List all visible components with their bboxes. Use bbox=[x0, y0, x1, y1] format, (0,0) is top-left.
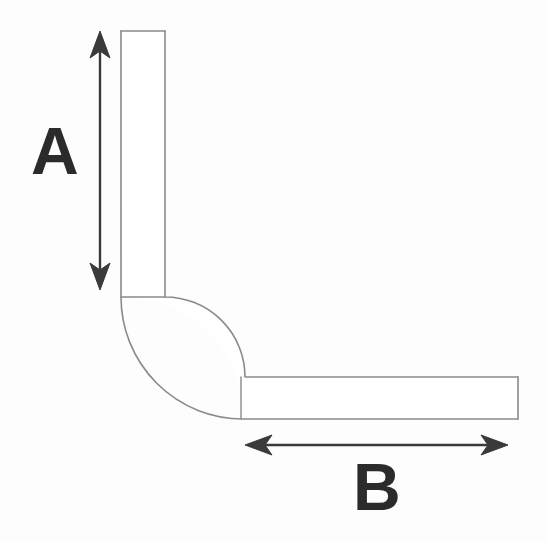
pipe-bend-figure bbox=[0, 0, 548, 542]
pipe-body bbox=[121, 31, 518, 419]
dimension-arrow-a bbox=[90, 31, 110, 290]
dimension-label-b: B bbox=[353, 454, 401, 520]
dimension-label-a: A bbox=[31, 118, 79, 184]
diagram-canvas: A B bbox=[0, 0, 548, 542]
pipe-outline bbox=[121, 31, 518, 418]
pipe-outer-edge bbox=[121, 31, 518, 419]
